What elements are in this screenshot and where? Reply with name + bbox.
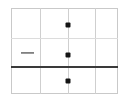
- legend-line-sample: [21, 52, 34, 54]
- vertical-gridline: [40, 8, 41, 94]
- data-point-marker[interactable]: [66, 23, 71, 28]
- vertical-gridline: [95, 8, 96, 94]
- data-point-marker[interactable]: [66, 79, 71, 84]
- data-point-marker[interactable]: [66, 53, 71, 58]
- plot-frame: [11, 8, 118, 94]
- horizontal-gridline: [11, 38, 118, 39]
- threshold-line: [11, 66, 118, 68]
- chart-canvas: [0, 0, 127, 101]
